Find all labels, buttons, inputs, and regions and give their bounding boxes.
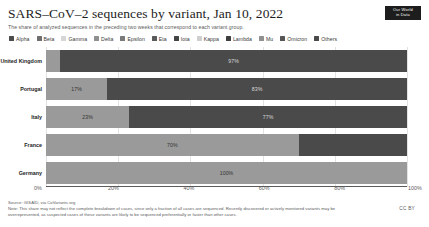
x-axis-tick: 20%: [108, 185, 119, 191]
legend-swatch-icon: [61, 36, 66, 41]
bar-segment-delta[interactable]: 17%: [46, 78, 107, 100]
legend-swatch-icon: [94, 36, 99, 41]
legend-item-alpha[interactable]: Alpha: [9, 36, 30, 42]
row-label-united-kingdom: United Kingdom: [0, 58, 42, 64]
legend-swatch-icon: [314, 36, 319, 41]
legend-item-iota[interactable]: Iota: [174, 36, 190, 42]
legend-label: Kappa: [204, 36, 219, 42]
segment-value-label: 83%: [252, 86, 263, 92]
bar-row[interactable]: France70%: [46, 134, 407, 156]
legend-label: Alpha: [16, 36, 30, 42]
bar-row[interactable]: Portugal17%83%: [46, 78, 407, 100]
legend-label: Others: [321, 36, 337, 42]
stacked-bar: 100%: [46, 162, 407, 184]
legend-swatch-icon: [259, 36, 264, 41]
stacked-bar: 70%: [46, 134, 407, 156]
legend-item-delta[interactable]: Delta: [94, 36, 113, 42]
x-axis-tick: 80%: [334, 185, 345, 191]
legend-item-beta[interactable]: Beta: [37, 36, 55, 42]
segment-value-label: 17%: [71, 86, 82, 92]
legend-swatch-icon: [9, 36, 14, 41]
bar-segment-omicron[interactable]: 77%: [129, 106, 407, 128]
stacked-bar: 97%: [46, 50, 407, 72]
legend-swatch-icon: [280, 36, 285, 41]
legend-swatch-icon: [120, 36, 125, 41]
legend-swatch-icon: [226, 36, 231, 41]
chart-legend: AlphaBetaGammaDeltaEpsilonEtaIotaKappaLa…: [8, 36, 421, 42]
row-label-italy: Italy: [31, 114, 42, 120]
legend-item-mu[interactable]: Mu: [259, 36, 273, 42]
bar-segment-omicron[interactable]: 83%: [107, 78, 407, 100]
legend-item-eta[interactable]: Eta: [152, 36, 167, 42]
bar-segment-omicron[interactable]: 97%: [60, 50, 407, 72]
legend-swatch-icon: [174, 36, 179, 41]
x-axis-tick: 40%: [183, 185, 194, 191]
bar-segment-delta[interactable]: [46, 50, 60, 72]
segment-value-label: 97%: [228, 58, 239, 64]
legend-item-epsilon[interactable]: Epsilon: [120, 36, 144, 42]
legend-label: Gamma: [68, 36, 87, 42]
legend-label: Beta: [44, 36, 55, 42]
x-axis-tick: 60%: [259, 185, 270, 191]
legend-item-lambda[interactable]: Lambda: [226, 36, 252, 42]
x-axis-tick: 0%: [34, 185, 42, 191]
row-label-portugal: Portugal: [20, 86, 42, 92]
plot-area: United Kingdom97%Portugal17%83%Italy23%7…: [8, 47, 421, 187]
segment-value-label: 77%: [263, 114, 274, 120]
bar-segment-omicron[interactable]: [299, 134, 407, 156]
source-text: Source: GISAID, via CoVariants.org: [8, 200, 421, 205]
legend-swatch-icon: [37, 36, 42, 41]
legend-item-gamma[interactable]: Gamma: [61, 36, 87, 42]
logo-line-2: in Data: [385, 13, 421, 18]
chart-footer: Source: GISAID, via CoVariants.org Note:…: [8, 200, 421, 217]
note-text: Note: This share may not reflect the com…: [8, 206, 338, 217]
bar-row[interactable]: Germany100%: [46, 162, 407, 184]
legend-swatch-icon: [197, 36, 202, 41]
legend-item-kappa[interactable]: Kappa: [197, 36, 219, 42]
chart-container: SARS–CoV–2 sequences by variant, Jan 10,…: [0, 0, 429, 227]
legend-label: Mu: [266, 36, 273, 42]
legend-label: Lambda: [233, 36, 252, 42]
legend-item-omicron[interactable]: Omicron: [280, 36, 307, 42]
bar-segment-delta[interactable]: 100%: [46, 162, 407, 184]
x-axis: 0%20%40%60%80%100%: [38, 185, 415, 195]
plot-inner: United Kingdom97%Portugal17%83%Italy23%7…: [46, 47, 407, 187]
legend-label: Eta: [159, 36, 167, 42]
row-label-germany: Germany: [19, 170, 42, 176]
legend-swatch-icon: [152, 36, 157, 41]
legend-item-others[interactable]: Others: [314, 36, 337, 42]
segment-value-label: 100%: [220, 170, 234, 176]
legend-label: Epsilon: [127, 36, 144, 42]
legend-label: Iota: [181, 36, 190, 42]
segment-value-label: 23%: [82, 114, 93, 120]
gridline: [407, 47, 408, 187]
our-world-in-data-logo[interactable]: Our World in Data: [385, 6, 421, 20]
x-axis-tick: 100%: [408, 185, 422, 191]
row-label-france: France: [24, 142, 42, 148]
legend-label: Omicron: [287, 36, 307, 42]
chart-header: SARS–CoV–2 sequences by variant, Jan 10,…: [8, 6, 421, 30]
bar-rows: United Kingdom97%Portugal17%83%Italy23%7…: [46, 47, 407, 187]
bar-segment-delta[interactable]: 23%: [46, 106, 129, 128]
stacked-bar: 17%83%: [46, 78, 407, 100]
page-title: SARS–CoV–2 sequences by variant, Jan 10,…: [8, 6, 421, 22]
segment-value-label: 70%: [167, 142, 178, 148]
chart-subtitle: The share of analyzed sequences in the p…: [8, 24, 421, 30]
license-label: CC BY: [399, 206, 415, 211]
bar-row[interactable]: United Kingdom97%: [46, 50, 407, 72]
bar-row[interactable]: Italy23%77%: [46, 106, 407, 128]
legend-label: Delta: [101, 36, 113, 42]
stacked-bar: 23%77%: [46, 106, 407, 128]
bar-segment-delta[interactable]: 70%: [46, 134, 299, 156]
